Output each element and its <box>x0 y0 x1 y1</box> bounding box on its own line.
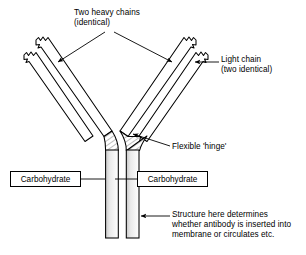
heavy-chains-label: Two heavy chains (identical) <box>74 8 140 28</box>
structure-note-line1: Structure here determines <box>172 210 291 220</box>
structure-note-label: Structure here determines whether antibo… <box>172 210 291 240</box>
heavy-chains-label-line1: Two heavy chains <box>74 8 140 18</box>
left-constant-region-stem <box>106 150 119 238</box>
carbohydrate-label-right: Carbohydrate <box>137 171 208 187</box>
light-chain-label: Light chain (two identical) <box>221 55 272 75</box>
structure-note-line3: membrane or circulates etc. <box>172 230 291 240</box>
light-chain-label-line1: Light chain <box>221 55 272 65</box>
light-chain-label-line2: (two identical) <box>221 65 272 75</box>
flexible-hinge-label: Flexible 'hinge' <box>172 142 226 152</box>
carbohydrate-label-left: Carbohydrate <box>10 171 81 187</box>
flexible-hinge-label-line1: Flexible 'hinge' <box>172 142 226 152</box>
right-constant-region-stem <box>126 150 139 238</box>
antibody-diagram-canvas: Two heavy chains (identical) Light chain… <box>0 0 306 255</box>
structure-note-line2: whether antibody is inserted into <box>172 220 291 230</box>
heavy-chains-leader-lines <box>58 32 172 62</box>
heavy-chains-label-line2: (identical) <box>74 18 140 28</box>
